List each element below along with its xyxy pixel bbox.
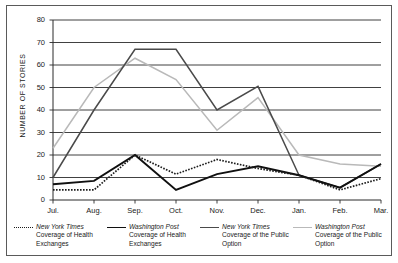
y-tick-label: 50 [23,83,45,92]
dark-gray-line-swatch [200,223,219,232]
legend-series-name: Washington Post [129,223,200,231]
x-tick-marks [53,200,381,204]
legend-series-subtitle: Coverage of the Public Option [315,231,386,248]
x-tick-label: Oct. [156,206,196,215]
y-tick-label: 60 [23,60,45,69]
series-line [53,58,381,166]
x-tick-label: Jan. [279,206,319,215]
legend-series-name: Washington Post [315,223,386,231]
y-tick-label: 20 [23,150,45,159]
x-tick-label: Nov. [197,206,237,215]
legend-label: New York TimesCoverage of Health Exchang… [36,223,107,248]
y-tick-label: 70 [23,38,45,47]
legend-label: Washington PostCoverage of the Public Op… [315,223,386,248]
x-tick-label: Sep. [115,206,155,215]
x-tick-label: Dec. [238,206,278,215]
black-line-swatch [107,223,126,232]
y-tick-label: 0 [23,195,45,204]
y-tick-label: 40 [23,105,45,114]
series-lines [53,49,381,190]
legend-series-subtitle: Coverage of Health Exchanges [36,231,107,248]
legend-label: New York TimesCoverage of the Public Opt… [222,223,293,248]
legend-label: Washington PostCoverage of Health Exchan… [129,223,200,248]
legend-item[interactable]: New York TimesCoverage of Health Exchang… [14,223,107,248]
x-tick-label: Jul. [33,206,73,215]
y-tick-label: 30 [23,128,45,137]
x-tick-label: Feb. [320,206,360,215]
legend-item[interactable]: Washington PostCoverage of Health Exchan… [107,223,200,248]
x-tick-label: Aug. [74,206,114,215]
x-tick-label: Mar. [361,206,398,215]
legend-item[interactable]: Washington PostCoverage of the Public Op… [293,223,386,248]
legend-series-name: New York Times [36,223,107,231]
series-line [53,49,381,187]
y-tick-label: 80 [23,15,45,24]
legend-series-subtitle: Coverage of the Public Option [222,231,293,248]
legend-item[interactable]: New York TimesCoverage of the Public Opt… [200,223,293,248]
figure-container: NUMBER OF STORIES 01020304050607080 Jul.… [0,0,398,263]
legend-series-name: New York Times [222,223,293,231]
chart-legend: New York TimesCoverage of Health Exchang… [14,223,386,248]
light-gray-line-swatch [293,223,312,232]
legend-series-subtitle: Coverage of Health Exchanges [129,231,200,248]
y-tick-marks [50,20,54,200]
dotted-line-swatch [14,223,33,232]
y-tick-label: 10 [23,173,45,182]
